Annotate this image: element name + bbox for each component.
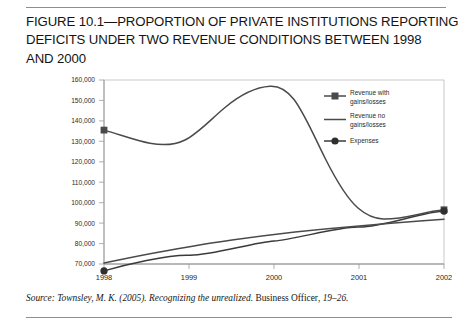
y-axis-ticks: [99, 80, 104, 264]
chart-svg: 160,000 150,000 140,000 130,000 120,000 …: [28, 74, 452, 289]
y-tick-label: 120,000: [71, 158, 95, 165]
top-rule: [26, 7, 446, 8]
bottom-rule: [26, 317, 452, 318]
figure-title-line-2: DEFICITS UNDER TWO REVENUE CONDITIONS BE…: [26, 31, 450, 49]
y-tick-label: 140,000: [71, 117, 95, 124]
y-tick-label: 70,000: [75, 260, 96, 267]
y-tick-label: 90,000: [75, 220, 96, 227]
y-tick-label: 100,000: [71, 199, 95, 206]
line-chart: 160,000 150,000 140,000 130,000 120,000 …: [28, 74, 452, 289]
legend-label: gains/losses: [350, 98, 387, 106]
plot-area-border: [104, 80, 444, 264]
x-axis-labels: 1998 1999 2000 2001 2002: [96, 273, 452, 282]
x-tick-label: 1999: [181, 273, 197, 282]
legend-square-marker-icon: [332, 93, 339, 100]
figure-title-line-3: AND 2000: [26, 50, 450, 68]
legend-label: Expenses: [350, 137, 379, 145]
y-tick-label: 150,000: [71, 97, 95, 104]
y-tick-label: 110,000: [72, 179, 96, 186]
marker-revenue-with-gains-1998: [101, 127, 108, 134]
legend-label: gains/losses: [350, 121, 387, 129]
y-tick-label: 80,000: [75, 240, 96, 247]
source-citation: Source: Townsley, M. K. (2005). Recogniz…: [26, 292, 456, 304]
x-tick-label: 2002: [436, 273, 452, 282]
source-text: Source: Townsley, M. K. (2005). Recogniz…: [26, 293, 253, 303]
y-tick-label: 130,000: [71, 138, 95, 145]
x-tick-label: 2000: [266, 273, 282, 282]
y-axis-labels: 160,000 150,000 140,000 130,000 120,000 …: [71, 76, 95, 267]
x-tick-label: 2001: [351, 273, 367, 282]
x-axis-ticks: [104, 264, 444, 269]
marker-expenses-2002: [440, 208, 447, 215]
figure-title: FIGURE 10.1—PROPORTION OF PRIVATE INSTIT…: [26, 13, 450, 68]
legend-label: Revenue with: [350, 89, 390, 96]
y-tick-label: 160,000: [71, 76, 95, 83]
legend-circle-marker-icon: [331, 137, 338, 144]
legend-label: Revenue no: [350, 112, 385, 119]
source-journal: Business Officer: [255, 293, 318, 303]
figure-title-line-1: FIGURE 10.1—PROPORTION OF PRIVATE INSTIT…: [26, 13, 450, 31]
figure-page: FIGURE 10.1—PROPORTION OF PRIVATE INSTIT…: [0, 0, 470, 324]
marker-expenses-1998: [100, 267, 107, 274]
source-pages: , 19–26.: [318, 293, 348, 303]
